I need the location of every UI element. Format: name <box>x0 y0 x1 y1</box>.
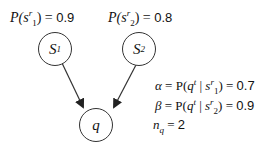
bayesian-network-diagram: P(sr1) = 0.9 P(sr2) = 0.8 S1 S2 q α = P(… <box>0 0 275 144</box>
alpha-param-label: α = P(qt | sr1) = 0.7 <box>155 78 255 94</box>
beta-param-label: β = P(qt | sr2) = 0.9 <box>155 98 254 114</box>
edge-s1-to-q <box>62 63 83 107</box>
node-s1: S1 <box>38 32 72 66</box>
node-s2: S2 <box>122 32 156 66</box>
prior-s1-label: P(sr1) = 0.9 <box>10 10 74 26</box>
edge-s2-to-q <box>114 63 137 107</box>
node-q: q <box>79 108 113 142</box>
prior-s2-label: P(sr2) = 0.8 <box>108 10 172 26</box>
nq-param-label: nq = 2 <box>153 117 185 133</box>
